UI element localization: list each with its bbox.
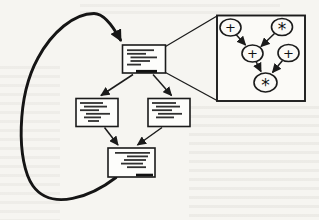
operator-plus-label: + [247, 46, 258, 61]
flow-edge-left-to-bottom [105, 128, 119, 146]
zoom-callout-line-top [166, 16, 218, 47]
operator-plus-label: + [225, 20, 236, 35]
basic-block-top [123, 45, 166, 73]
highlighted-statement-bar [136, 174, 153, 177]
zoom-callout-line-bottom [166, 73, 218, 101]
flow-edge-right-to-bottom [138, 128, 163, 146]
flow-edge-top-to-right [153, 75, 172, 96]
dag-node-plus-1: + [220, 19, 241, 36]
dag-detail-box: + * + + * [217, 16, 305, 102]
dag-node-plus-2: + [242, 45, 263, 62]
operator-plus-label: + [283, 46, 294, 61]
flow-edge-top-to-left [101, 75, 133, 96]
basic-block-top-rect [123, 45, 166, 73]
operator-star-label: * [278, 19, 287, 39]
highlighted-statement-bar [136, 70, 157, 73]
basic-block-bottom [108, 148, 155, 177]
flow-graph-diagram: + * + + * [0, 0, 319, 220]
operator-star-label: * [261, 75, 270, 95]
zoom-callout-lines [166, 16, 218, 101]
figure-canvas: + * + + * [0, 0, 319, 220]
dag-node-plus-3: + [278, 45, 299, 62]
basic-block-left [76, 99, 118, 127]
basic-block-right [148, 99, 190, 127]
